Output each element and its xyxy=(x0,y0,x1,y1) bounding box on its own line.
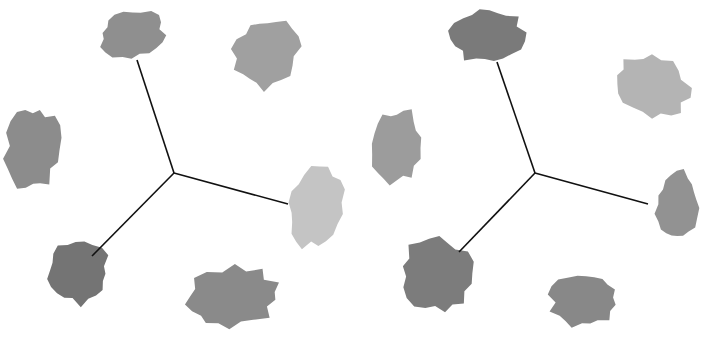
swatch-bottom-right xyxy=(546,273,618,330)
swatch-top-right xyxy=(604,39,702,131)
swatch-top xyxy=(95,5,169,64)
swatch-top-right xyxy=(220,5,310,99)
swatch-bottom-left xyxy=(390,226,487,323)
swatch-left xyxy=(1,107,64,192)
connector-line xyxy=(535,173,648,204)
connector-line xyxy=(92,173,174,256)
stimulus-canvas xyxy=(0,0,705,340)
panel-left xyxy=(1,5,352,335)
swatch-right xyxy=(653,167,703,238)
connector-line xyxy=(137,60,174,173)
swatch-bottom-left xyxy=(39,233,116,312)
swatch-right xyxy=(280,160,352,256)
connector-line xyxy=(174,173,288,204)
connector-line xyxy=(497,62,535,173)
figure xyxy=(0,0,705,340)
swatch-left xyxy=(368,106,425,188)
swatch-top xyxy=(446,5,528,64)
connector-line xyxy=(459,173,535,252)
panel-right xyxy=(368,5,702,329)
swatch-bottom-right xyxy=(180,258,284,335)
